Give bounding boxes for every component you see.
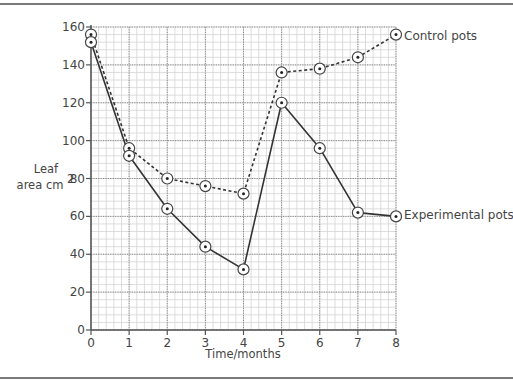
data-point-dot <box>166 207 169 210</box>
data-point-dot <box>204 245 207 248</box>
x-axis-title: Time/months <box>204 347 280 361</box>
data-point-dot <box>280 71 283 74</box>
y-tick-label: 100 <box>62 134 85 148</box>
legend-experimental-pots: Experimental pots <box>404 208 513 222</box>
y-tick-label: 140 <box>62 58 85 72</box>
data-point-dot <box>166 177 169 180</box>
data-point-dot <box>395 33 398 36</box>
legend-control-pots: Control pots <box>404 29 477 43</box>
y-axis-title-superscript: 2 <box>67 172 74 186</box>
y-tick-label: 20 <box>70 285 85 299</box>
x-tick-label: 1 <box>125 336 133 350</box>
x-tick-label: 2 <box>163 336 171 350</box>
y-tick-label: 120 <box>62 96 85 110</box>
data-point-dot <box>90 41 93 44</box>
data-point-dot <box>242 192 245 195</box>
axis-labels: 012345678020406080100120140160 <box>62 20 400 350</box>
y-axis-title-line2: area cm <box>17 178 64 192</box>
data-point-dot <box>204 185 207 188</box>
y-tick-label: 60 <box>70 209 85 223</box>
data-point-dot <box>280 101 283 104</box>
data-point-dot <box>395 215 398 218</box>
data-point-dot <box>90 33 93 36</box>
data-point-dot <box>128 154 131 157</box>
line-chart: 012345678020406080100120140160 Time/mont… <box>0 0 513 380</box>
x-tick-label: 7 <box>354 336 362 350</box>
data-point-dot <box>356 56 359 59</box>
data-point-dot <box>356 211 359 214</box>
y-tick-label: 160 <box>62 20 85 34</box>
x-tick-label: 0 <box>87 336 95 350</box>
y-tick-label: 40 <box>70 247 85 261</box>
data-point-dot <box>318 67 321 70</box>
data-point-dot <box>128 147 131 150</box>
axes <box>86 25 396 335</box>
x-tick-label: 8 <box>392 336 400 350</box>
data-point-dot <box>318 147 321 150</box>
y-axis-title-line1: Leaf <box>34 162 59 176</box>
data-point-dot <box>242 268 245 271</box>
y-tick-label: 0 <box>77 323 85 337</box>
x-tick-label: 6 <box>316 336 324 350</box>
